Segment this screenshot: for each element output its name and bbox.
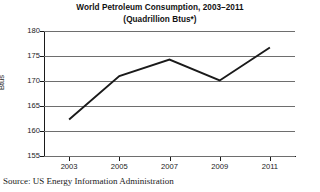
x-tick-label: 2003 (61, 162, 78, 171)
x-tick-mark (170, 157, 171, 161)
chart-title: World Petroleum Consumption, 2003–2011 (0, 2, 320, 14)
y-tick-label: 170 (27, 76, 40, 85)
x-tick-label: 2005 (111, 162, 128, 171)
y-tick-label: 165 (27, 101, 40, 110)
x-tick-mark (270, 157, 271, 161)
y-tick-label: 180 (27, 26, 40, 35)
chart-subtitle: (Quadrillion Btus*) (0, 14, 320, 26)
x-tick-label: 2007 (161, 162, 178, 171)
chart-figure: World Petroleum Consumption, 2003–2011 (… (0, 0, 320, 192)
y-tick-label: 155 (27, 151, 40, 160)
source-note: Source: US Energy Information Administra… (3, 176, 174, 186)
x-axis-tick-labels: 20032005200720092011 (44, 162, 296, 174)
data-series-line (44, 31, 295, 156)
plot-area (44, 31, 295, 156)
x-tick-mark (119, 157, 120, 161)
x-tick-mark (220, 157, 221, 161)
y-tick-label: 160 (27, 126, 40, 135)
chart-title-block: World Petroleum Consumption, 2003–2011 (… (0, 2, 320, 25)
x-tick-label: 2011 (262, 162, 278, 171)
y-tick-label: 175 (27, 51, 40, 60)
x-tick-mark (69, 157, 70, 161)
y-axis-tick-labels: 155160165170175180 (12, 31, 40, 157)
x-tick-label: 2009 (211, 162, 228, 171)
series-polyline (69, 48, 270, 120)
y-axis-title: Btus (0, 75, 6, 90)
